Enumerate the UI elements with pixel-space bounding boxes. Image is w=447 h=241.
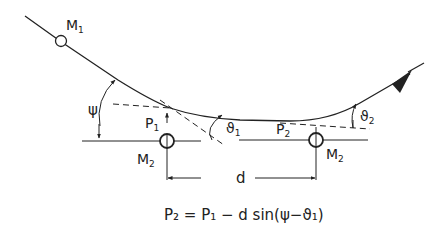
label-psi: ψ xyxy=(88,101,98,119)
formula: P₂ = P₁ − d sin(ψ−ϑ₁) xyxy=(164,206,324,224)
label-theta1: ϑ1 xyxy=(226,120,240,138)
trajectory-diagram: M1 ψ P1 M2 ϑ1 P2 M2 ϑ2 d P₂ = P₁ − d sin… xyxy=(0,0,447,241)
label-p2: P2 xyxy=(276,121,290,139)
label-m1: M1 xyxy=(66,17,84,35)
m1-marker xyxy=(56,36,67,47)
psi-angle-arc xyxy=(99,80,115,126)
label-m2-right: M2 xyxy=(326,146,344,164)
label-theta2: ϑ2 xyxy=(360,108,374,126)
tangent-line-p2 xyxy=(280,123,370,129)
label-d: d xyxy=(236,169,246,187)
label-m2-left: M2 xyxy=(137,151,155,169)
label-p1: P1 xyxy=(145,115,159,133)
direction-arrow-icon xyxy=(392,70,412,93)
